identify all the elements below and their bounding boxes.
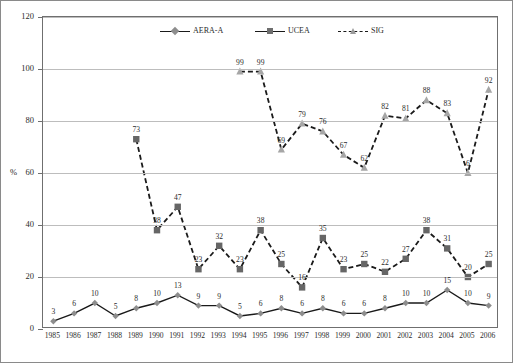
x-axis-tick-label: 2004: [439, 332, 454, 340]
data-point-label: 69: [278, 137, 286, 145]
data-point-marker: [485, 86, 492, 93]
data-point-label: 9: [197, 293, 201, 301]
x-axis-tick-label: 1993: [211, 332, 226, 340]
x-axis-tick-label: 2000: [356, 332, 371, 340]
x-axis-tick-label: 2005: [459, 332, 474, 340]
data-point-marker: [112, 313, 118, 319]
data-point-label: 76: [319, 118, 327, 126]
data-point-marker: [299, 284, 305, 290]
data-point-marker: [299, 310, 305, 316]
data-point-label: 6: [342, 300, 346, 308]
data-point-marker: [71, 310, 77, 316]
y-axis: 020406080100120: [0, 16, 42, 328]
legend-marker-diamond-icon: [171, 27, 179, 35]
data-point-label: 8: [279, 295, 283, 303]
data-point-marker: [444, 287, 450, 293]
gridline: [43, 121, 497, 122]
legend-item-sig[interactable]: SIG: [338, 25, 384, 37]
data-point-label: 8: [383, 295, 387, 303]
y-axis-tick: [38, 17, 43, 18]
data-point-label: 10: [464, 290, 472, 298]
series-line-ucea: [136, 139, 488, 287]
chart-screenshot: 020406080100120 361058101399568686681010…: [0, 0, 513, 363]
y-axis-tick: [38, 69, 43, 70]
data-point-label: 82: [381, 103, 389, 111]
gridline: [43, 17, 497, 18]
data-point-label: 23: [340, 256, 348, 264]
data-point-label: 9: [217, 293, 221, 301]
x-axis-tick-label: 1991: [169, 332, 184, 340]
gridline: [43, 277, 497, 278]
data-point-marker: [175, 292, 181, 298]
data-point-label: 38: [257, 217, 265, 225]
legend-item-aera-a[interactable]: AERA-A: [160, 25, 223, 37]
data-point-label: 25: [485, 251, 493, 259]
data-point-label: 99: [257, 59, 265, 67]
x-axis-tick-label: 2006: [480, 332, 495, 340]
data-point-label: 3: [51, 308, 55, 316]
data-point-label: 9: [487, 293, 491, 301]
data-point-marker: [216, 243, 222, 249]
data-point-label: 35: [319, 225, 327, 233]
data-point-label: 81: [402, 105, 410, 113]
data-point-marker: [154, 227, 160, 233]
data-point-label: 5: [238, 303, 242, 311]
data-point-marker: [320, 305, 326, 311]
data-point-marker: [403, 300, 409, 306]
y-axis-tick-label: 120: [21, 12, 34, 21]
legend-swatch: [160, 26, 190, 36]
data-point-label: 79: [298, 111, 306, 119]
y-axis-tick-label: 0: [30, 324, 34, 333]
legend-label: SIG: [371, 27, 384, 35]
y-axis-tick-label: 40: [26, 220, 35, 229]
data-point-marker: [154, 300, 160, 306]
data-point-label: 99: [236, 59, 244, 67]
data-point-marker: [195, 302, 201, 308]
data-point-label: 38: [423, 217, 431, 225]
y-axis-tick: [38, 173, 43, 174]
data-point-label: 32: [215, 233, 223, 241]
data-point-marker: [340, 310, 346, 316]
legend-swatch: [338, 26, 368, 36]
legend-marker-triangle-icon: [350, 28, 356, 34]
data-point-label: 8: [321, 295, 325, 303]
gridline: [43, 173, 497, 174]
data-point-marker: [133, 305, 139, 311]
y-axis-tick-label: 20: [26, 272, 35, 281]
data-point-marker: [50, 318, 56, 324]
y-axis-tick: [38, 225, 43, 226]
legend-marker-square-icon: [267, 28, 273, 34]
y-axis-tick-label: 80: [26, 116, 35, 125]
x-axis-tick-label: 1990: [148, 332, 163, 340]
data-point-label: 31: [443, 235, 451, 243]
y-axis-tick-label: 100: [21, 64, 34, 73]
x-axis-tick-label: 1996: [273, 332, 288, 340]
data-point-marker: [278, 261, 284, 267]
data-point-marker: [216, 302, 222, 308]
x-axis: 1985198619871988198919901991199219931994…: [42, 332, 498, 348]
x-axis-tick-label: 2003: [418, 332, 433, 340]
x-axis-tick-label: 1989: [128, 332, 143, 340]
data-point-label: 25: [278, 251, 286, 259]
data-point-marker: [423, 96, 430, 103]
x-axis-tick-label: 2001: [376, 332, 391, 340]
data-point-marker: [423, 227, 429, 233]
data-point-marker: [133, 136, 139, 142]
y-axis-tick-label: 60: [26, 168, 35, 177]
legend-item-ucea[interactable]: UCEA: [255, 25, 310, 37]
data-point-marker: [485, 302, 491, 308]
data-point-label: 23: [195, 256, 203, 264]
chart-legend: AERA-AUCEASIG: [160, 25, 390, 39]
data-point-label: 16: [298, 274, 306, 282]
x-axis-tick-label: 1997: [293, 332, 308, 340]
data-point-label: 10: [153, 290, 161, 298]
data-point-label: 25: [360, 251, 368, 259]
data-point-label: 62: [360, 155, 368, 163]
data-point-label: 10: [402, 290, 410, 298]
legend-label: UCEA: [288, 27, 310, 35]
data-point-label: 20: [464, 264, 472, 272]
data-point-marker: [257, 227, 263, 233]
data-point-label: 10: [91, 290, 99, 298]
data-point-marker: [340, 266, 346, 272]
y-axis-tick: [38, 329, 43, 330]
